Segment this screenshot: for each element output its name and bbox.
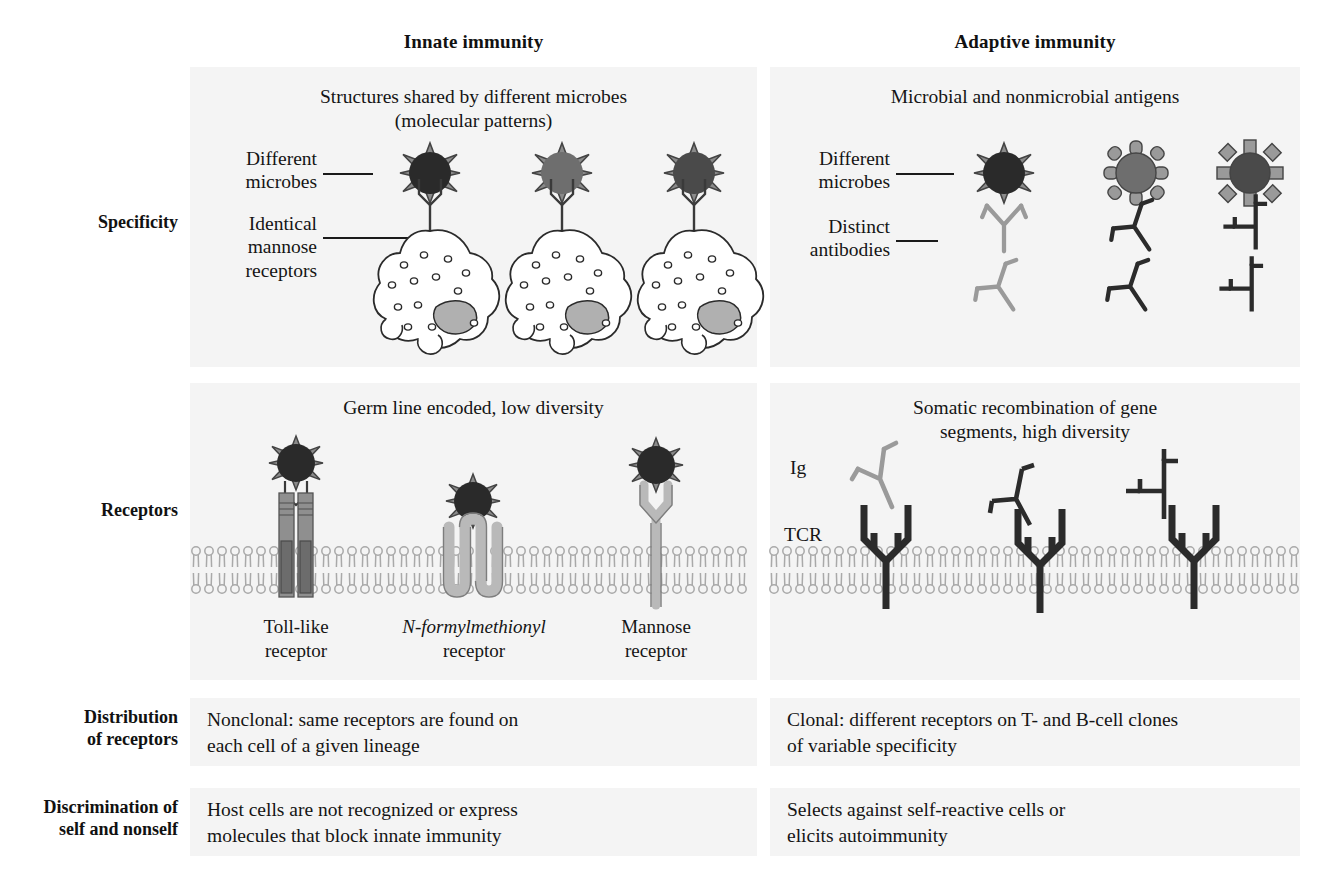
caption-mannose-receptor: Mannose receptor	[586, 615, 726, 663]
row-label-distribution-line1: Distribution	[0, 707, 178, 729]
text-line2: elicits autoimmunity	[787, 823, 1299, 849]
antigen-unit-1	[974, 143, 1034, 309]
text-line1: Nonclonal: same receptors are found on	[207, 707, 747, 733]
title-line1: Structures shared by different microbes	[190, 85, 757, 109]
antigen-unit-3	[1217, 140, 1283, 311]
title-line1: Germ line encoded, low diversity	[190, 396, 757, 420]
antibody-free-2	[1107, 260, 1148, 309]
phagocyte-unit-1	[374, 143, 499, 354]
column-header-innate: Innate immunity	[190, 31, 757, 53]
title-line1: Somatic recombination of gene	[770, 396, 1300, 420]
title-line1: Microbial and nonmicrobial antigens	[770, 85, 1300, 109]
text-line1: Host cells are not recognized or express	[207, 797, 747, 823]
panel-distribution-innate: Nonclonal: same receptors are found on e…	[190, 698, 757, 766]
caption-line1: Toll-like	[226, 615, 366, 639]
lipid-bilayer-adaptive	[770, 547, 1298, 593]
panel-receptors-innate: Germ line encoded, low diversity	[190, 383, 757, 680]
callout-line1: Identical	[190, 212, 317, 235]
panel-discrimination-innate: Host cells are not recognized or express…	[190, 788, 757, 856]
row-label-distribution-line2: of receptors	[0, 729, 178, 751]
n-formylmethionyl-receptor	[444, 474, 503, 597]
callout-line2: microbes	[770, 170, 890, 193]
panel-specificity-adaptive: Microbial and nonmicrobial antigens Diff…	[770, 67, 1300, 367]
callout-identical-mannose-receptors: Identical mannose receptors	[190, 212, 317, 282]
callout-different-microbes-adaptive: Different microbes	[770, 147, 890, 194]
ig-molecule-1	[852, 443, 896, 507]
text-line2: of variable specificity	[787, 733, 1299, 759]
row-label-specificity: Specificity	[0, 212, 178, 234]
antibody-bound-2	[1111, 200, 1152, 249]
phagocyte-group-innate	[330, 129, 760, 359]
toll-like-receptor	[269, 436, 323, 597]
callout-line2: mannose	[190, 235, 317, 258]
text-line2: molecules that block innate immunity	[207, 823, 747, 849]
callout-different-microbes: Different microbes	[190, 147, 317, 194]
callout-line2: antibodies	[770, 238, 890, 261]
caption-line2: receptor	[586, 639, 726, 663]
row-label-distribution: Distribution of receptors	[0, 707, 178, 751]
column-header-adaptive: Adaptive immunity	[770, 31, 1300, 53]
caption-line2: receptor	[226, 639, 366, 663]
caption-line1: Mannose	[586, 615, 726, 639]
callout-line1: Different	[190, 147, 317, 170]
innate-receptor-diagram	[190, 423, 757, 643]
callout-line3: receptors	[190, 259, 317, 282]
column-header-adaptive-label: Adaptive immunity	[954, 31, 1115, 52]
text-line1: Selects against self-reactive cells or	[787, 797, 1299, 823]
panel-receptors-innate-title: Germ line encoded, low diversity	[190, 396, 757, 420]
row-label-discrimination: Discrimination of self and nonself	[0, 797, 178, 841]
adaptive-receptor-diagram	[770, 423, 1300, 643]
caption-line2: receptor	[368, 639, 580, 663]
panel-receptors-adaptive: Somatic recombination of gene segments, …	[770, 383, 1300, 680]
panel-distribution-adaptive: Clonal: different receptors on T- and B-…	[770, 698, 1300, 766]
callout-line2: microbes	[190, 170, 317, 193]
row-label-receptors: Receptors	[0, 500, 178, 522]
panel-discrimination-adaptive: Selects against self-reactive cells or e…	[770, 788, 1300, 856]
row-label-receptors-line1: Receptors	[0, 500, 178, 522]
discrimination-adaptive-text: Selects against self-reactive cells or e…	[787, 797, 1299, 849]
row-label-discrimination-line2: self and nonself	[0, 819, 178, 841]
callout-distinct-antibodies: Distinct antibodies	[770, 215, 890, 262]
callout-line1: Distinct	[770, 215, 890, 238]
phagocyte-unit-2	[506, 143, 631, 354]
panel-specificity-adaptive-title: Microbial and nonmicrobial antigens	[770, 85, 1300, 109]
antigen-unit-2	[1104, 141, 1168, 309]
ig-molecule-2	[990, 465, 1034, 525]
row-label-specificity-line1: Specificity	[0, 212, 178, 234]
microbe-antibody-group-adaptive	[900, 129, 1300, 359]
row-label-discrimination-line1: Discrimination of	[0, 797, 178, 819]
panel-specificity-innate-title: Structures shared by different microbes …	[190, 85, 757, 133]
caption-nformylmethionyl-receptor: N-formylmethionyl receptor	[368, 615, 580, 663]
distribution-adaptive-text: Clonal: different receptors on T- and B-…	[787, 707, 1299, 759]
caption-line1: N-formylmethionyl	[368, 615, 580, 639]
antibody-free-3	[1219, 256, 1263, 311]
antibody-free-1	[975, 260, 1016, 309]
caption-toll-like-receptor: Toll-like receptor	[226, 615, 366, 663]
phagocyte-unit-3	[638, 143, 763, 354]
tcr-molecule-2	[1018, 509, 1062, 613]
discrimination-innate-text: Host cells are not recognized or express…	[207, 797, 747, 849]
column-header-innate-label: Innate immunity	[404, 31, 544, 52]
text-line1: Clonal: different receptors on T- and B-…	[787, 707, 1299, 733]
panel-specificity-innate: Structures shared by different microbes …	[190, 67, 757, 367]
callout-line1: Different	[770, 147, 890, 170]
distribution-innate-text: Nonclonal: same receptors are found on e…	[207, 707, 747, 759]
text-line2: each cell of a given lineage	[207, 733, 747, 759]
antibody-bound-1	[982, 206, 1026, 252]
